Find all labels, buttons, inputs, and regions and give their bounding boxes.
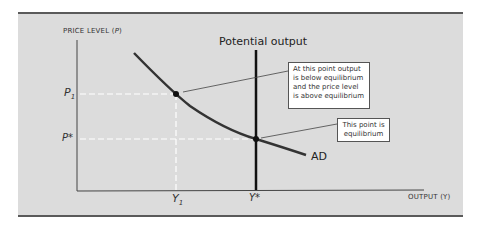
- y1-tick-label: Y1: [172, 192, 183, 207]
- potential-output-label: Potential output: [219, 35, 307, 48]
- callout-disequilibrium: At this point output is below equilibriu…: [288, 62, 370, 109]
- callout1-line: and the price level: [293, 83, 365, 92]
- x-axis: [77, 190, 424, 191]
- callout2-line: equilibrium: [342, 130, 385, 139]
- ad-curve: [134, 53, 306, 155]
- ystar-tick-label: Y*: [249, 192, 260, 203]
- y-axis-label: PRICE LEVEL (P): [63, 27, 122, 35]
- point-equilibrium: [253, 136, 259, 142]
- callout1-line: is below equilibrium: [293, 74, 365, 83]
- callout2-line: This point is: [342, 121, 385, 130]
- x-axis-label: OUTPUT (Y): [408, 193, 451, 201]
- callout1-line: is above equilibrium: [293, 92, 365, 101]
- leader-line-1: [183, 71, 288, 92]
- leader-line-2: [261, 124, 337, 138]
- point-p1: [173, 91, 179, 97]
- ad-label: AD: [311, 150, 327, 163]
- callout1-line: At this point output: [293, 65, 365, 74]
- callout-equilibrium: This point is equilibrium: [337, 118, 390, 142]
- pstar-tick-label: P*: [62, 132, 73, 143]
- p1-tick-label: P1: [64, 86, 75, 101]
